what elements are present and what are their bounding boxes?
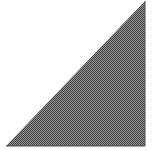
triangle-figure [0,0,161,150]
figure-canvas [0,0,161,150]
right-triangle-shape [6,1,145,146]
